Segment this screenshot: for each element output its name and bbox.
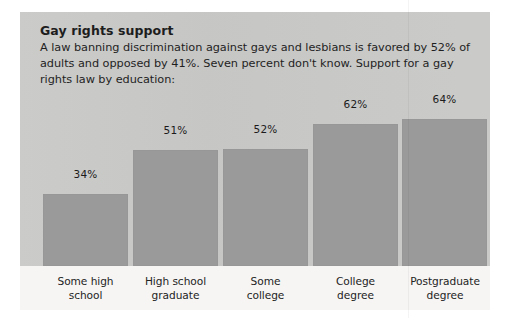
category-label-4: Postgraduate degree: [400, 275, 490, 302]
category-label-line: college: [223, 289, 308, 303]
bar-value-label: 52%: [223, 123, 308, 135]
bar-value-label: 34%: [43, 168, 128, 180]
category-label-line: school: [43, 289, 128, 303]
category-label-line: degree: [400, 289, 490, 303]
chart-title: Gay rights support: [40, 23, 470, 38]
category-label-1: High school graduate: [133, 275, 218, 302]
category-label-line: graduate: [133, 289, 218, 303]
bar-value-label: 62%: [313, 98, 398, 110]
bar-rect[interactable]: [313, 124, 398, 266]
bar-value-label: 64%: [402, 93, 487, 105]
header-block: Gay rights support A law banning discrim…: [40, 23, 470, 88]
bar-rect[interactable]: [133, 150, 218, 266]
category-label-0: Some high school: [43, 275, 128, 302]
category-label-3: College degree: [313, 275, 398, 302]
category-label-line: Some: [223, 275, 308, 289]
category-label-line: College: [313, 275, 398, 289]
category-label-2: Some college: [223, 275, 308, 302]
bar-value-label: 51%: [133, 124, 218, 136]
chart-subtitle: A law banning discrimination against gay…: [40, 40, 470, 88]
category-label-line: degree: [313, 289, 398, 303]
bar-rect[interactable]: [43, 194, 128, 266]
category-label-line: Some high: [43, 275, 128, 289]
category-label-line: Postgraduate: [400, 275, 490, 289]
bar-rect[interactable]: [223, 149, 308, 266]
category-label-line: High school: [133, 275, 218, 289]
category-axis: Some high school High school graduate So…: [20, 266, 490, 310]
bar-rect[interactable]: [402, 119, 487, 266]
chart-panel: 34% 51% 52% 62% 64% Gay rights support A…: [20, 12, 490, 310]
